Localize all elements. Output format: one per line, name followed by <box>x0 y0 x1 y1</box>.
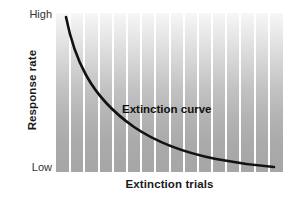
extinction-curve-line <box>56 13 283 172</box>
y-axis-title: Response rate <box>26 10 38 170</box>
y-tick-label-low: Low <box>8 161 52 173</box>
plot-area: Extinction curve <box>56 13 283 172</box>
extinction-curve-figure: Response rate High Low Extinction curve … <box>0 0 294 199</box>
y-tick-label-high: High <box>8 8 52 20</box>
curve-annotation-label: Extinction curve <box>122 103 211 115</box>
x-axis-title: Extinction trials <box>56 178 283 190</box>
